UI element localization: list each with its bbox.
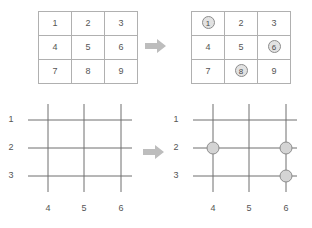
line-grid-with-intersections: 1 2 3 4 5 6 [165, 100, 305, 215]
grid-cell[interactable]: 2 [225, 12, 258, 36]
col-label-6: 6 [114, 203, 128, 213]
number-grid-marked: 1 2 3 4 5 6 7 8 9 [191, 11, 291, 84]
grid-cell[interactable]: 8 [72, 60, 105, 84]
grid-cell[interactable]: 4 [192, 36, 225, 60]
cell-value: 2 [238, 18, 243, 28]
cell-value: 9 [118, 66, 123, 76]
intersection-dot [280, 170, 292, 182]
intersection-dot [280, 142, 292, 154]
col-label-4: 4 [206, 203, 220, 213]
col-label-5: 5 [242, 203, 256, 213]
cell-value: 4 [205, 42, 210, 52]
table-row: 1 2 3 [192, 12, 291, 36]
table-row: 1 2 3 [39, 12, 138, 36]
grid-cell[interactable]: 4 [39, 36, 72, 60]
col-label-6: 6 [279, 203, 293, 213]
cell-value: 8 [85, 66, 90, 76]
arrow-right-icon [143, 144, 165, 160]
marked-value-badge: 1 [202, 16, 215, 29]
grid-cell[interactable]: 6 [105, 36, 138, 60]
cell-value: 5 [238, 42, 243, 52]
grid-cell[interactable]: 7 [192, 60, 225, 84]
grid-cell[interactable]: 3 [105, 12, 138, 36]
grid-cell[interactable]: 2 [72, 12, 105, 36]
line-grid-plain: 1 2 3 4 5 6 [0, 100, 140, 215]
grid-cell[interactable]: 7 [39, 60, 72, 84]
marked-value-badge: 6 [268, 40, 281, 53]
row-label-3: 3 [4, 170, 18, 180]
arrow-right-icon [145, 38, 167, 54]
grid-cell[interactable]: 5 [72, 36, 105, 60]
row-label-1: 1 [4, 114, 18, 124]
grid-cell-marked[interactable]: 6 [258, 36, 291, 60]
col-label-4: 4 [41, 203, 55, 213]
marked-value-badge: 8 [235, 64, 248, 77]
row-label-1: 1 [169, 114, 183, 124]
intersection-dot [207, 142, 219, 154]
cell-value: 6 [118, 42, 123, 52]
cell-value: 4 [52, 42, 57, 52]
grid-cell-marked[interactable]: 1 [192, 12, 225, 36]
row-label-2: 2 [169, 142, 183, 152]
grid-cell[interactable]: 5 [225, 36, 258, 60]
table-row: 4 5 6 [39, 36, 138, 60]
cell-value: 3 [271, 18, 276, 28]
table-row: 7 8 9 [192, 60, 291, 84]
grid-cell[interactable]: 1 [39, 12, 72, 36]
cell-value: 5 [85, 42, 90, 52]
row-label-2: 2 [4, 142, 18, 152]
table-row: 7 8 9 [39, 60, 138, 84]
diagram-canvas: 1 2 3 4 5 6 7 8 9 1 2 3 [0, 0, 312, 228]
grid-cell[interactable]: 9 [105, 60, 138, 84]
cell-value: 3 [118, 18, 123, 28]
grid-cell-marked[interactable]: 8 [225, 60, 258, 84]
grid-cell[interactable]: 3 [258, 12, 291, 36]
grid-cell[interactable]: 9 [258, 60, 291, 84]
cell-value: 9 [271, 66, 276, 76]
cell-value: 7 [52, 66, 57, 76]
cell-value: 1 [52, 18, 57, 28]
cell-value: 2 [85, 18, 90, 28]
row-label-3: 3 [169, 170, 183, 180]
cell-value: 7 [205, 66, 210, 76]
number-grid-plain: 1 2 3 4 5 6 7 8 9 [38, 11, 138, 84]
table-row: 4 5 6 [192, 36, 291, 60]
col-label-5: 5 [77, 203, 91, 213]
